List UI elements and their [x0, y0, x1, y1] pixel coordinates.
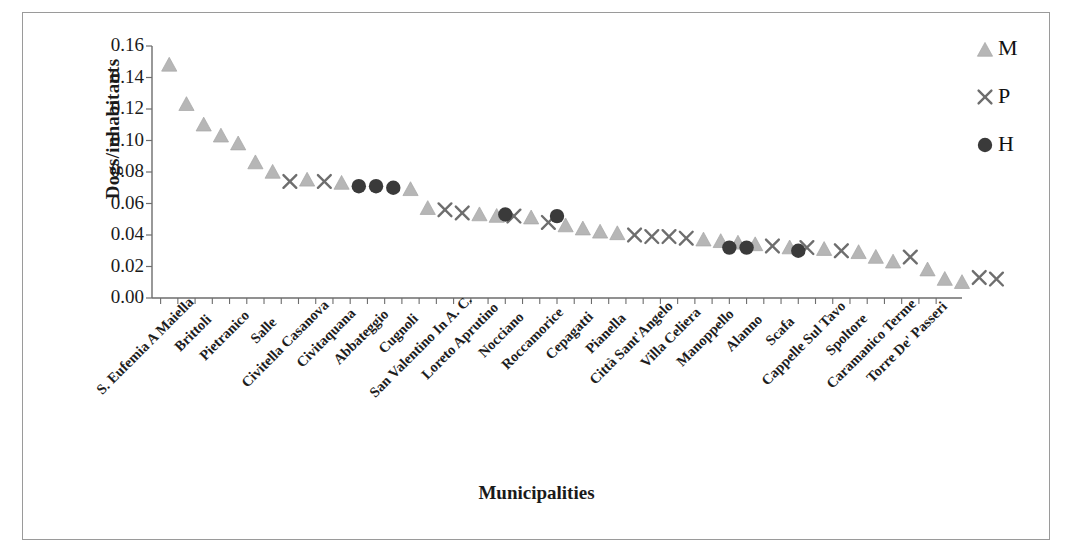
legend-item: H	[972, 132, 1062, 180]
legend-item: M	[972, 36, 1062, 84]
triangle-marker-icon	[972, 36, 998, 62]
legend-label: H	[998, 131, 1014, 157]
cross-marker-icon	[979, 91, 992, 104]
x-axis-title: Municipalities	[0, 482, 1073, 504]
legend-item: P	[972, 84, 1062, 132]
x-axis-tick-labels: S. Eufemia A MaiellaBrittoliPietranicoSa…	[0, 0, 1073, 553]
triangle-marker-icon	[977, 42, 992, 56]
circle-marker-icon	[972, 132, 998, 158]
cross-marker-icon	[972, 84, 998, 110]
circle-marker-icon	[978, 138, 992, 152]
chart-legend: MPH	[972, 36, 1062, 180]
legend-label: M	[998, 35, 1018, 61]
chart-figure: 0.000.020.040.060.080.100.120.140.16 Dog…	[0, 0, 1073, 553]
legend-label: P	[998, 83, 1010, 109]
